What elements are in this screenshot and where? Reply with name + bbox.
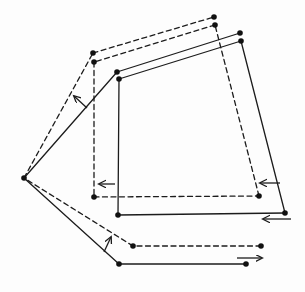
dashed-edge-B2-C: [24, 178, 133, 246]
solid-edge-G-H: [118, 79, 119, 215]
vertex-dot-B: [116, 261, 122, 267]
solid-edge-F-G: [119, 41, 241, 79]
solid-edge-I-F: [241, 41, 285, 213]
figure-stage: [0, 0, 305, 292]
vertex-dot-B2: [130, 243, 136, 249]
vertex-dot-F: [238, 38, 244, 44]
arrow-up-left-upper-link: [74, 96, 87, 108]
vertex-dot-H2: [91, 194, 97, 200]
dashed-edge-F2-G2: [94, 25, 215, 62]
vertex-dot-D2: [90, 50, 96, 56]
dashed-edge-C-D2: [24, 53, 93, 178]
vertex-dot-C: [21, 175, 27, 181]
dashed-edge-I2-F2: [215, 25, 259, 196]
solid-edge-C-D: [24, 72, 117, 178]
vertex-dot-D: [114, 69, 120, 75]
vertex-dot-I: [282, 210, 288, 216]
vertex-dot-G2: [91, 59, 97, 65]
vertex-dot-H: [115, 212, 121, 218]
vertex-dot-E: [237, 30, 243, 36]
vertex-dot-A2: [258, 243, 264, 249]
solid-edge-H-I: [118, 213, 285, 215]
vertex-dot-A: [243, 261, 249, 267]
vertex-dot-F2: [212, 22, 218, 28]
linkage-motion-diagram: [0, 0, 305, 292]
vertex-dot-I2: [256, 193, 262, 199]
vertex-dot-E2: [211, 14, 217, 20]
arrow-up-right-lower-link: [104, 237, 111, 252]
vertex-dot-G: [116, 76, 122, 82]
